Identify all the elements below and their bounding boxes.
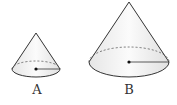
cone-a xyxy=(12,33,60,77)
label-b: B xyxy=(124,82,134,97)
label-a: A xyxy=(32,82,41,97)
cone-b xyxy=(89,2,169,77)
diagram-canvas xyxy=(0,0,177,105)
center-point-b xyxy=(127,60,130,63)
center-point-a xyxy=(34,67,37,70)
cone-diagram: A B xyxy=(0,0,177,105)
